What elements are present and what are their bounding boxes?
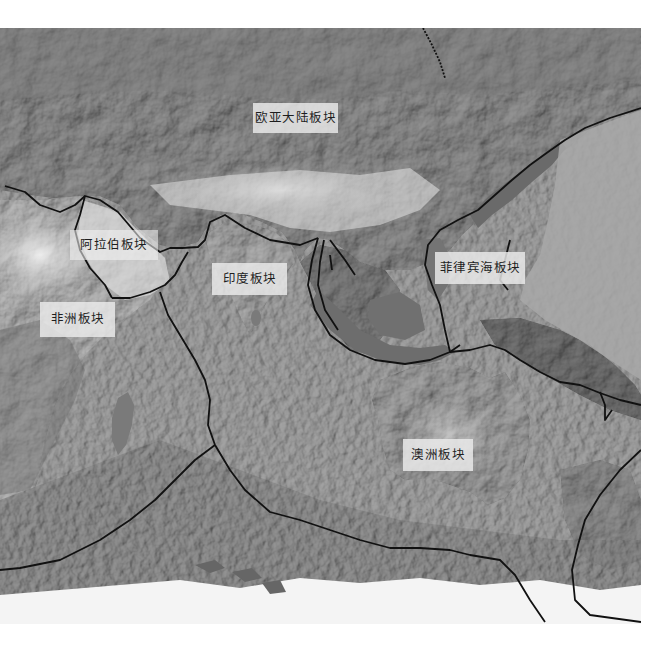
label-african-plate: 非洲板块: [40, 302, 115, 337]
label-indian-plate: 印度板块: [212, 263, 287, 295]
sri-lanka: [251, 310, 261, 326]
label-philippine-sea-plate: 菲律宾海板块: [435, 252, 525, 284]
label-australian-plate: 澳洲板块: [403, 439, 473, 471]
label-eurasian-plate: 欧亚大陆板块: [253, 103, 338, 133]
label-arabian-plate: 阿拉伯板块: [70, 230, 158, 260]
